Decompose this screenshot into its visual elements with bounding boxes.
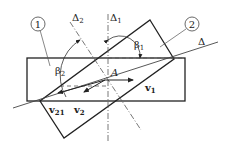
delta-label: Δ [198, 36, 205, 47]
delta2-label: Δ2 [72, 12, 84, 25]
v21-label: v21 [48, 104, 65, 117]
delta1-label: Δ1 [110, 12, 122, 25]
body-2-label: 2 [189, 19, 195, 30]
kinematics-diagram: 1 2 Δ2 Δ1 Δ β1 β2 A v1 v2 v21 [0, 0, 231, 147]
point-a-label: A [110, 67, 118, 78]
beta2-arc [60, 40, 80, 97]
body-1-label: 1 [35, 19, 41, 30]
v1-label: v1 [144, 82, 156, 95]
v2-label: v2 [73, 104, 85, 117]
body-2-leader [160, 29, 186, 47]
beta1-label: β1 [134, 39, 144, 52]
body-1-leader [40, 30, 50, 66]
beta2-label: β2 [55, 65, 65, 78]
